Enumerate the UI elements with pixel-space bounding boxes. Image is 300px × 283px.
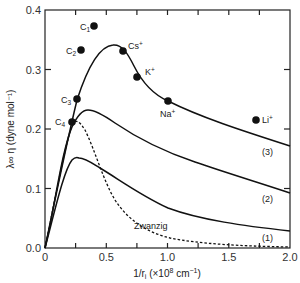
x-tick-label: 0.5 [99, 251, 114, 263]
x-axis-label: 1/ri (×108 cm−1) [133, 267, 201, 280]
y-tick-label: 0.4 [26, 4, 41, 16]
point-c4 [68, 118, 76, 126]
label-c2: C2 [66, 46, 77, 57]
label-curve-2: (2) [262, 194, 273, 204]
y-tick-label: 0.1 [26, 183, 41, 195]
label-c3: C3 [61, 95, 72, 106]
label-k: K+ [145, 66, 155, 77]
label-li: Li+ [262, 114, 273, 125]
curve-1 [45, 157, 290, 248]
x-ticks [76, 10, 260, 248]
label-curve-3: (3) [262, 147, 273, 157]
y-tick-label: 0.2 [26, 123, 41, 135]
label-c1: C1 [80, 22, 91, 33]
x-tick-label: 1.0 [160, 251, 175, 263]
label-c4: C4 [55, 117, 66, 128]
label-cs: Cs+ [128, 40, 143, 51]
label-zwanzig: Zwanzig [134, 221, 168, 231]
point-c1 [90, 22, 98, 30]
point-cs [119, 47, 127, 55]
chart: 0 0.5 1.0 1.5 2.0 0.0 0.1 0.2 0.3 0.4 1/… [0, 0, 300, 283]
point-na [164, 97, 172, 105]
label-curve-1: (1) [262, 233, 273, 243]
point-li [252, 116, 260, 124]
x-tick-label: 1.5 [221, 251, 236, 263]
point-c2 [77, 46, 85, 54]
plot-frame [45, 10, 290, 248]
label-na: Na+ [160, 108, 176, 119]
y-tick-label: 0.3 [26, 64, 41, 76]
y-axis-label: λ∞ η (dyne mol⁻¹) [5, 90, 16, 169]
curve-3 [45, 45, 290, 248]
x-tick-label: 2.0 [282, 251, 297, 263]
point-k [133, 73, 141, 81]
point-c3 [73, 95, 81, 103]
x-tick-label: 0 [42, 251, 48, 263]
y-tick-label: 0.0 [26, 242, 41, 254]
